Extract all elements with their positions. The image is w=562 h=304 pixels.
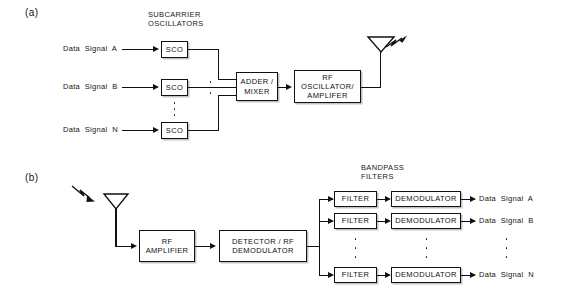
output-ellipsis <box>505 238 508 258</box>
demod-n-out-arrow <box>470 272 476 278</box>
input-line-b <box>122 87 154 88</box>
sco-n-out-h <box>188 130 219 131</box>
adder-bus-ellipsis <box>209 81 212 94</box>
receive-antenna-icon <box>70 184 132 220</box>
sco-block-n: SCO <box>161 122 188 139</box>
antenna-to-amp-arrow <box>131 243 137 249</box>
filter-block-n: FILTER <box>334 267 377 283</box>
adder-mixer-block: ADDER / MIXER <box>236 72 278 101</box>
filter-bus-v <box>319 199 320 276</box>
demodulator-ellipsis <box>425 238 428 258</box>
filter-block-b: FILTER <box>334 213 377 229</box>
filter-block-a: FILTER <box>334 191 377 207</box>
input-arrow-n <box>153 127 159 133</box>
sco-n-to-adder <box>218 95 236 96</box>
input-line-a <box>122 49 154 50</box>
output-label-a: Data Signal A <box>479 195 533 204</box>
demod-a-out-arrow <box>470 196 476 202</box>
detector-rf-demodulator-block: DETECTOR / RF DEMODULATOR <box>219 230 307 262</box>
sco-block-b: SCO <box>161 79 188 96</box>
adder-to-rf-arrow <box>286 84 292 90</box>
input-line-n <box>122 130 154 131</box>
demodulator-block-a: DEMODULATOR <box>391 191 461 207</box>
demod-b-out-arrow <box>470 218 476 224</box>
subcarrier-oscillators-header: SUBCARRIER OSCILLATORS <box>148 11 204 28</box>
transmit-antenna-icon <box>366 35 424 57</box>
input-arrow-a <box>153 46 159 52</box>
input-label-b: Data Signal B <box>63 83 118 92</box>
sco-a-out-v <box>218 49 219 80</box>
sco-n-out-v <box>218 95 219 131</box>
rf-to-antenna-v <box>380 52 381 87</box>
sco-a-to-adder <box>218 79 236 80</box>
rf-oscillator-amplifier-block: RF OSCILLATOR/ AMPLIFER <box>294 70 361 103</box>
rf-to-antenna-h <box>361 87 381 88</box>
sco-block-a: SCO <box>161 41 188 58</box>
antenna-down-line <box>115 209 116 247</box>
demodulator-block-n: DEMODULATOR <box>391 267 461 283</box>
panel-b-tag: (b) <box>25 172 38 184</box>
output-label-n: Data Signal N <box>479 271 534 280</box>
bandpass-filters-header: BANDPASS FILTERS <box>361 164 404 181</box>
amp-to-detector-arrow <box>210 243 216 249</box>
sco-b-to-adder <box>188 87 236 88</box>
filter-ellipsis <box>354 238 357 258</box>
input-arrow-b <box>153 84 159 90</box>
input-label-n: Data Signal N <box>63 126 118 135</box>
demodulator-block-b: DEMODULATOR <box>391 213 461 229</box>
panel-a-tag: (a) <box>25 7 38 19</box>
block-diagram-figure: (a) SUBCARRIER OSCILLATORS Data Signal A… <box>0 0 562 304</box>
output-label-b: Data Signal B <box>479 217 534 226</box>
input-label-a: Data Signal A <box>63 45 117 54</box>
sco-ellipsis <box>173 102 176 116</box>
sco-a-out-h <box>188 49 219 50</box>
rf-amplifier-block: RF AMPLIFIER <box>139 230 195 262</box>
